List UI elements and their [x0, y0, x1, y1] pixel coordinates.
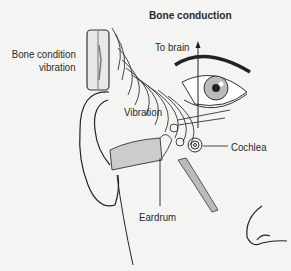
cochlea — [188, 138, 228, 152]
nose — [247, 206, 287, 245]
ossicles — [160, 110, 230, 158]
ear-canal — [110, 138, 162, 170]
bone-conduction-device — [87, 30, 109, 90]
label-vibration: Vibration — [124, 106, 162, 118]
label-device-line1: Bone condition — [12, 48, 76, 60]
eye — [175, 56, 250, 107]
label-eardrum: Eardrum — [139, 211, 176, 223]
eyebrow — [175, 56, 250, 72]
auditory-nerve — [178, 158, 218, 212]
label-cochlea: Cochlea — [231, 141, 267, 153]
bone-conduction-illustration — [0, 0, 291, 271]
label-to-brain: To brain — [155, 41, 189, 53]
label-device-line2: vibration — [39, 61, 76, 73]
figure-title: Bone conduction — [149, 9, 232, 21]
